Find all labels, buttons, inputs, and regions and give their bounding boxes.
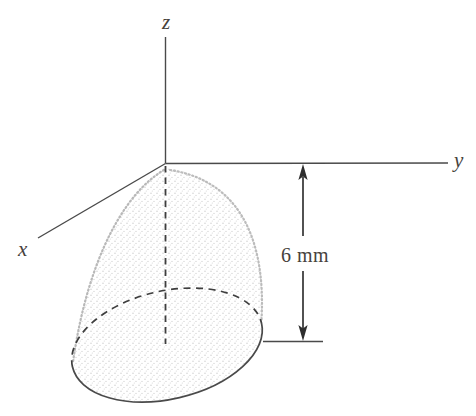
z-axis-label: z [161,10,170,34]
y-axis-label: y [452,148,464,172]
y-axis-line [166,163,449,164]
x-axis-label: x [17,237,28,261]
textbook-figure-cone-diagram: z y x 6 mm [0,0,476,416]
figure-canvas: z y x 6 mm [0,0,476,416]
dimension-label: 6 mm [281,244,329,266]
